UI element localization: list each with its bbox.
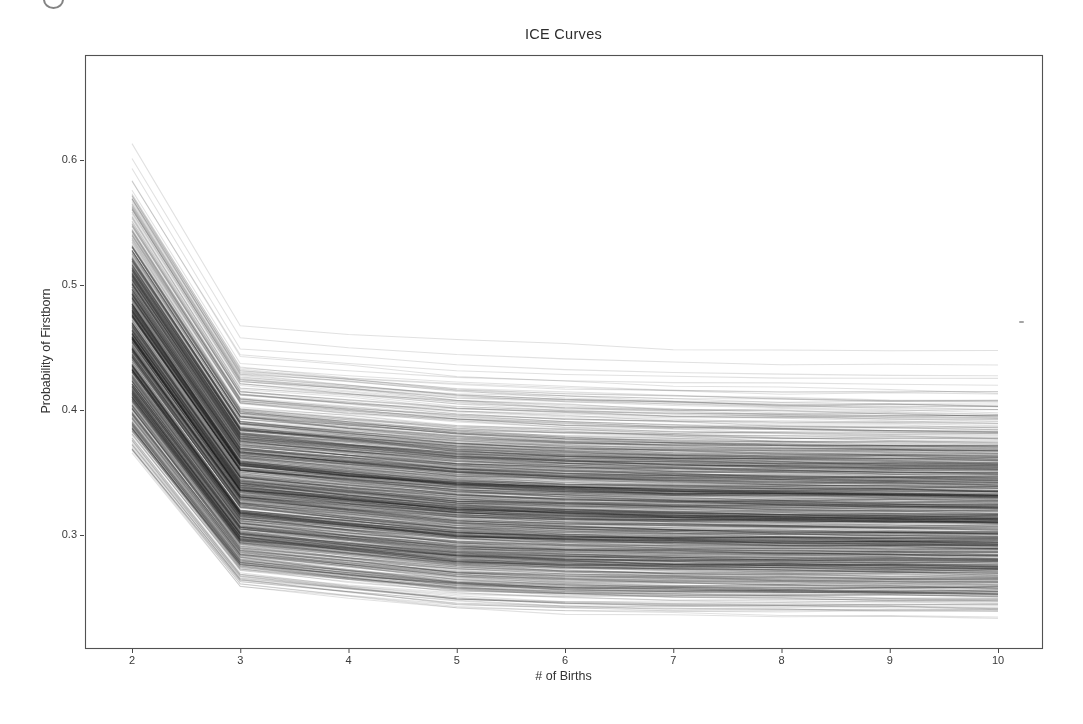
x-tick-label: 5 — [440, 654, 474, 666]
x-tick-label: 9 — [873, 654, 907, 666]
ice-curves-plot-canvas — [0, 0, 1083, 724]
x-tick-label: 6 — [548, 654, 582, 666]
scan-artifact-speck — [1019, 321, 1024, 323]
x-tick-label: 10 — [981, 654, 1015, 666]
y-tick-label: 0.4 — [45, 403, 77, 415]
x-axis-label: # of Births — [85, 669, 1042, 683]
x-tick-label: 3 — [223, 654, 257, 666]
y-tick-label: 0.5 — [45, 278, 77, 290]
y-tick-label: 0.6 — [45, 153, 77, 165]
x-tick-label: 4 — [332, 654, 366, 666]
x-tick-label: 7 — [656, 654, 690, 666]
x-tick-label: 2 — [115, 654, 149, 666]
x-tick-label: 8 — [765, 654, 799, 666]
y-tick-label: 0.3 — [45, 528, 77, 540]
scanned-figure-page: ICE Curves Probability of Firstborn # of… — [0, 0, 1083, 724]
chart-title: ICE Curves — [85, 26, 1042, 42]
